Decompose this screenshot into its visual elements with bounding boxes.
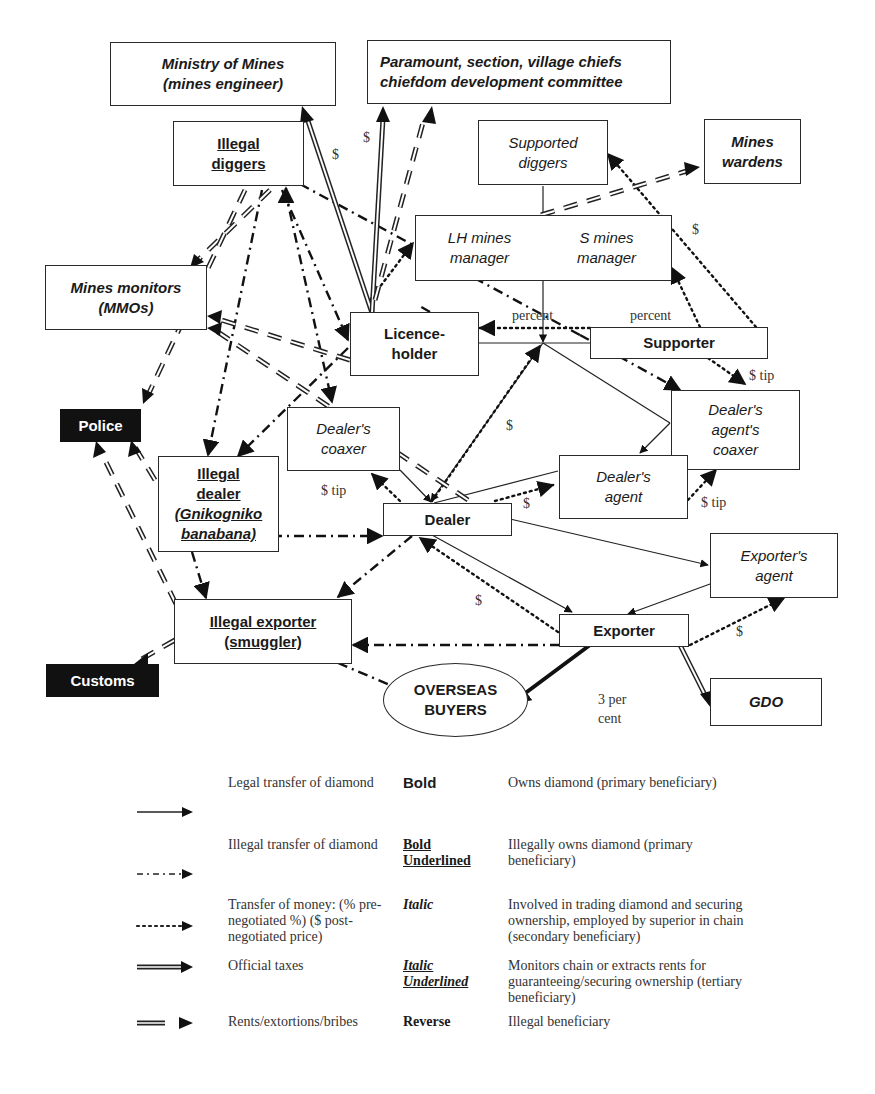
legend-style-label: Bold [403,775,488,791]
node-label: Police [78,416,122,436]
legend-meaning: Owns diamond (primary beneficiary) [508,775,798,791]
node-label: dealer [196,484,240,504]
node-label: Supporter [643,333,715,353]
node-gdo: GDO [710,678,822,726]
node-label: (mines engineer) [163,74,283,94]
double-arrow-icon [135,960,195,974]
legend-description: Illegal transfer of diamond [228,837,388,853]
node-label: holder [392,344,438,364]
node-label: Illegal exporter [210,612,317,632]
node-lh-mines-manager: LH mines manager [415,215,544,281]
node-exporters-agent: Exporter's agent [710,533,838,598]
node-dealer: Dealer [383,503,512,536]
edge-label-agent-coaxer-tip: $ tip [701,495,726,511]
node-label: Dealer's [708,400,763,420]
edge-label-coaxer-tip: $ tip [321,483,346,499]
dash-dot-arrow-icon [135,867,195,881]
edge-label-exporter-agent-money: $ [736,624,743,640]
node-label: Illegal [217,134,260,154]
node-exporter: Exporter [559,614,689,647]
node-label: Mines [731,132,774,152]
legend-style-label: Italic [403,897,488,913]
dotted-arrow-icon [135,919,195,933]
edge-label-chiefs-tax: $ [363,130,370,146]
node-label: agent's [712,420,760,440]
edge-label-exporter-dealer-money: $ [475,593,482,609]
edge-label-supporter-percent: percent [630,308,671,324]
node-label: Dealer [425,510,471,530]
legend-meaning: Involved in trading diamond and securing… [508,897,748,945]
node-label: diggers [211,154,265,174]
node-label: agent [605,487,643,507]
rent-bribe-edges [93,106,700,666]
node-illegal-diggers: Illegal diggers [173,121,304,186]
node-s-mines-manager: S mines manager [542,215,672,281]
legend-style-label: Reverse [403,1014,488,1030]
legend-style-label: Bold Underlined [403,837,493,869]
node-label: (MMOs) [99,298,154,318]
node-label: OVERSEAS [414,680,497,700]
edge-label-ministry-tax: $ [332,147,339,163]
edge-label-supporter-tip: $ tip [749,368,774,384]
node-label: Exporter [593,621,655,641]
node-police: Police [60,409,141,442]
edge-label-gdo-tax: 3 per cent [598,690,648,728]
node-label: agent [755,566,793,586]
node-label: Paramount, section, village chiefs [380,52,622,72]
node-illegal-exporter: Illegal exporter (smuggler) [174,599,352,664]
node-illegal-dealer: Illegal dealer (Gnikogniko banabana) [158,456,279,552]
solid-arrow-icon [135,805,195,819]
node-label: coaxer [713,440,758,460]
node-ministry-of-mines: Ministry of Mines (mines engineer) [110,42,336,106]
node-label: Customs [70,671,134,691]
node-dealers-agents-coaxer: Dealer's agent's coaxer [671,390,800,470]
edge-label-lh-percent: percent [512,308,553,324]
node-label: Dealer's [596,467,651,487]
node-label: Ministry of Mines [162,54,285,74]
legend-meaning: Illegally owns diamond (primary benefici… [508,837,748,869]
legend-meaning: Monitors chain or extracts rents for gua… [508,958,768,1006]
node-licence-holder: Licence- holder [350,312,479,376]
legend-description: Transfer of money: (% pre-negotiated %) … [228,897,383,945]
legend-description: Rents/extortions/bribes [228,1014,408,1030]
node-chiefs: Paramount, section, village chiefs chief… [367,40,671,104]
edge-label-dealer-money: $ [506,418,513,434]
node-label: S mines [579,228,633,248]
edge-label-dealer-agent-money: $ [523,496,530,512]
node-label: (Gnikogniko [175,504,263,524]
node-label: diggers [518,153,567,173]
node-label: manager [577,248,636,268]
node-label: wardens [722,152,783,172]
legend-description: Legal transfer of diamond [228,775,388,791]
edge-label-wardens-money: $ [692,222,699,238]
legend-description: Official taxes [228,958,388,974]
node-label: GDO [749,692,783,712]
node-customs: Customs [46,664,159,697]
node-label: Licence- [384,324,445,344]
node-mines-wardens: Mines wardens [704,119,801,184]
node-label: Mines monitors [71,278,182,298]
node-label: banabana) [181,524,256,544]
node-label: Illegal [197,464,240,484]
node-supporter: Supporter [590,327,768,359]
legend-style-label: Italic Underlined [403,958,493,990]
legend-meaning: Illegal beneficiary [508,1014,798,1030]
node-label: LH mines [448,228,511,248]
node-label: manager [450,248,509,268]
node-label: chiefdom development committee [380,72,623,92]
node-label: (smuggler) [224,632,302,652]
node-supported-diggers: Supported diggers [478,120,608,185]
node-label: BUYERS [424,700,487,720]
node-label: Exporter's [740,546,807,566]
node-mines-monitors: Mines monitors (MMOs) [45,265,207,330]
node-overseas-buyers: OVERSEAS BUYERS [383,663,528,737]
node-dealers-agent: Dealer's agent [559,455,688,519]
edges-layer [0,0,875,760]
node-label: Supported [508,133,577,153]
double-dashed-arrow-icon [135,1016,195,1030]
node-label: coaxer [321,439,366,459]
diamond-chain-diagram: Ministry of Mines (mines engineer) Param… [0,0,875,760]
node-dealers-coaxer: Dealer's coaxer [287,407,400,471]
node-label: Dealer's [316,419,371,439]
